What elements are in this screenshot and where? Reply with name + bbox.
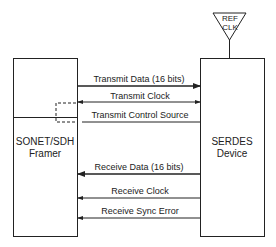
framer-label-line2: Framer [16,148,74,160]
receive-data-label: Receive Data (16 bits) [94,162,183,172]
serdes-label-line2: Device [211,148,252,160]
ref-clock-label-line1: REF [222,14,238,23]
framer-label-line1: SONET/SDH [16,136,74,148]
serdes-label-line1: SERDES [211,136,252,148]
serdes-label: SERDES Device [211,136,252,160]
ref-clock-label: REF CLK [222,14,238,32]
framer-label: SONET/SDH Framer [16,136,74,160]
ref-clock-label-line2: CLK [222,23,238,32]
transmit-clock-loopback-dashed [56,103,76,122]
transmit-data-label: Transmit Data (16 bits) [93,74,184,84]
transmit-control-source-label: Transmit Control Source [91,110,188,120]
receive-sync-error-label: Receive Sync Error [101,206,179,216]
transmit-clock-label: Transmit Clock [110,91,170,101]
receive-clock-label: Receive Clock [111,186,169,196]
framer-block [14,59,78,118]
